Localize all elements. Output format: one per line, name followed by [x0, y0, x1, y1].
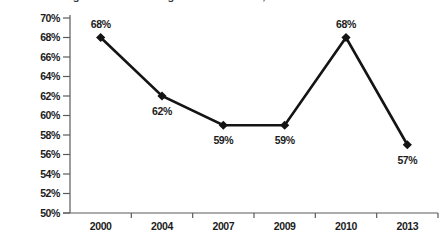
chart-title: Percentage of Firms Offering Health Insu…: [28, 0, 343, 2]
x-axis-category-label: 2010: [335, 220, 357, 232]
y-axis-tick-label: 50%: [40, 207, 61, 219]
y-axis-tick-label: 56%: [40, 148, 61, 160]
data-point-marker: [219, 121, 228, 130]
chart-figure: Percentage of Firms Offering Health Insu…: [0, 0, 446, 241]
y-axis-tick-label: 58%: [40, 129, 61, 141]
x-axis-category-label: 2009: [274, 220, 296, 232]
data-point-label: 59%: [213, 134, 234, 146]
x-axis-category-label: 2004: [151, 220, 173, 232]
x-axis-category-label: 2000: [90, 220, 112, 232]
x-axis-category-label: 2007: [212, 220, 234, 232]
data-point-label: 68%: [91, 18, 112, 30]
data-point-label: 59%: [275, 134, 296, 146]
data-point-label: 62%: [152, 105, 173, 117]
y-axis-tick-label: 68%: [40, 31, 61, 43]
y-axis-tick-label: 60%: [40, 109, 61, 121]
y-axis-tick-label: 62%: [40, 90, 61, 102]
data-point-label: 57%: [397, 154, 418, 166]
y-axis-tick-label: 52%: [40, 187, 61, 199]
y-axis-tick-label: 64%: [40, 70, 61, 82]
y-axis-tick-label: 54%: [40, 168, 61, 180]
line-chart: 50%52%54%56%58%60%62%64%66%68%70%2000200…: [0, 0, 446, 241]
y-axis-tick-label: 70%: [40, 12, 61, 24]
x-axis-category-label: 2013: [396, 220, 418, 232]
chart-title-clipped-region: Percentage of Firms Offering Health Insu…: [0, 0, 446, 4]
y-axis-tick-label: 66%: [40, 51, 61, 63]
data-point-label: 68%: [336, 18, 357, 30]
data-series-line: [101, 38, 408, 145]
